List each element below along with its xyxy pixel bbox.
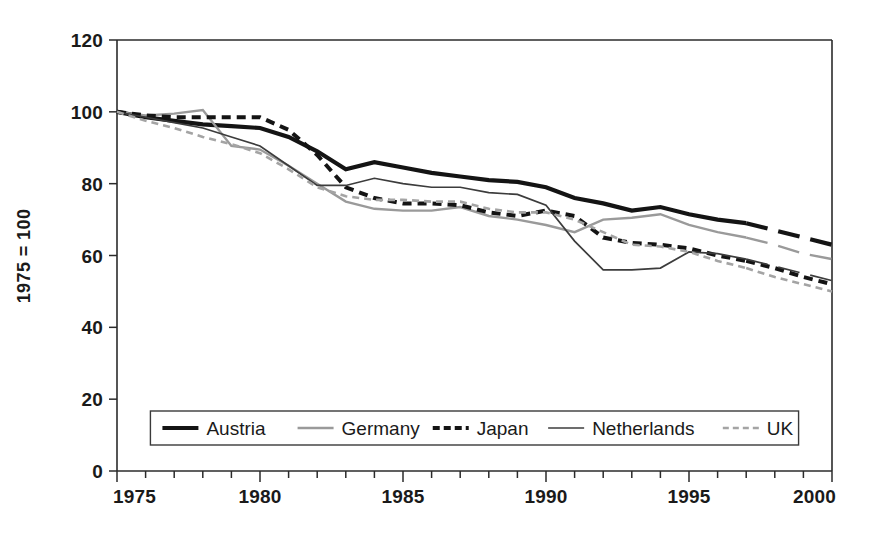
y-axis-title: 1975 = 100: [14, 209, 34, 304]
chart-legend: AustriaGermanyJapanNetherlandsUK: [150, 411, 798, 445]
y-tick-label: 60: [81, 246, 103, 267]
y-tick-label: 40: [81, 317, 103, 338]
x-tick-label: 2000: [793, 486, 836, 507]
legend-label-uk: UK: [767, 418, 794, 439]
legend-label-austria: Austria: [206, 418, 266, 439]
legend-label-japan: Japan: [477, 418, 529, 439]
x-tick-label: 1990: [524, 486, 567, 507]
x-tick-label: 1995: [667, 486, 710, 507]
x-tick-label: 1980: [238, 486, 281, 507]
y-tick-label: 120: [71, 30, 103, 51]
series-line-japan: [117, 112, 746, 261]
x-axis: 197519801985199019952000: [113, 471, 836, 507]
series-projection-netherlands: [746, 259, 832, 281]
legend-label-germany: Germany: [342, 418, 421, 439]
y-tick-label: 80: [81, 174, 103, 195]
legend-label-netherlands: Netherlands: [592, 418, 694, 439]
y-tick-label: 100: [71, 102, 103, 123]
x-tick-label: 1985: [381, 486, 424, 507]
chart-canvas: 020406080100120 197519801985199019952000…: [0, 0, 884, 538]
y-axis: 020406080100120: [71, 30, 117, 482]
series-line-austria: [117, 112, 746, 223]
data-series-group: [117, 110, 832, 291]
x-tick-label: 1975: [113, 486, 156, 507]
y-tick-label: 0: [92, 461, 103, 482]
line-chart: 020406080100120 197519801985199019952000…: [0, 0, 884, 538]
y-tick-label: 20: [81, 389, 103, 410]
